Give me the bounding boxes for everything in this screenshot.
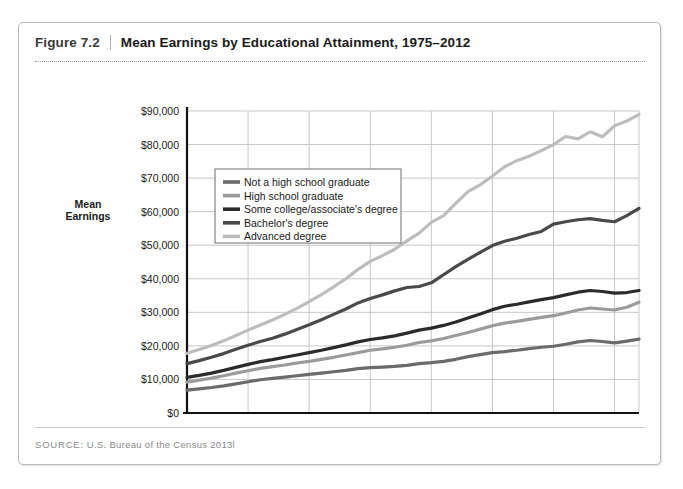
series-line [187, 339, 639, 390]
y-tick-label: $70,000 [141, 172, 179, 184]
figure-header: Figure 7.2 Mean Earnings by Educational … [35, 35, 470, 50]
legend-label: Not a high school graduate [244, 176, 370, 188]
legend-label: Advanced degree [244, 230, 326, 242]
y-tick-label: $90,000 [141, 105, 179, 117]
source-label: SOURCE: [35, 439, 84, 450]
figure-number: Figure 7.2 [35, 35, 100, 50]
line-chart: $0$10,000$20,000$30,000$40,000$50,000$60… [19, 69, 662, 419]
figure-title: Mean Earnings by Educational Attainment,… [121, 35, 471, 50]
figure-header-divider [110, 35, 111, 50]
figure-card: Figure 7.2 Mean Earnings by Educational … [18, 22, 661, 465]
y-tick-label: $40,000 [141, 273, 179, 285]
source-text: U.S. Bureau of the Census 2013l [87, 439, 235, 450]
y-tick-label: $10,000 [141, 373, 179, 385]
y-tick-label: $60,000 [141, 206, 179, 218]
legend-label: High school graduate [244, 190, 343, 202]
title-dotted-rule [35, 61, 645, 62]
y-tick-label: $50,000 [141, 239, 179, 251]
legend-label: Some college/associate's degree [244, 203, 398, 215]
source-note: SOURCE: U.S. Bureau of the Census 2013l [35, 439, 235, 450]
legend-label: Bachelor's degree [244, 217, 328, 229]
y-tick-label: $30,000 [141, 306, 179, 318]
y-tick-label: $20,000 [141, 340, 179, 352]
y-tick-label: $0 [167, 407, 179, 419]
y-tick-label: $80,000 [141, 139, 179, 151]
source-rule [35, 427, 645, 428]
chart-plot-area: $0$10,000$20,000$30,000$40,000$50,000$60… [19, 69, 662, 419]
